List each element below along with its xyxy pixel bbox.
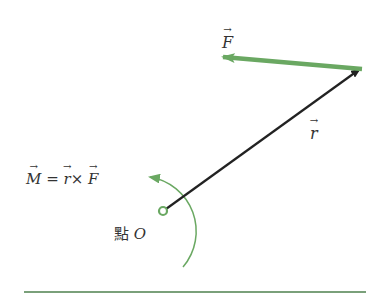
moment-equation: M = r× F — [26, 172, 98, 187]
position-vector-r — [166, 69, 360, 209]
point-o-marker — [159, 207, 167, 215]
torque-diagram — [0, 0, 391, 299]
point-o-label: 點 O — [114, 227, 146, 242]
moment-arc — [150, 177, 196, 267]
radius-label: r — [310, 126, 318, 142]
force-label: F — [222, 35, 233, 51]
force-vector-f — [223, 57, 362, 69]
